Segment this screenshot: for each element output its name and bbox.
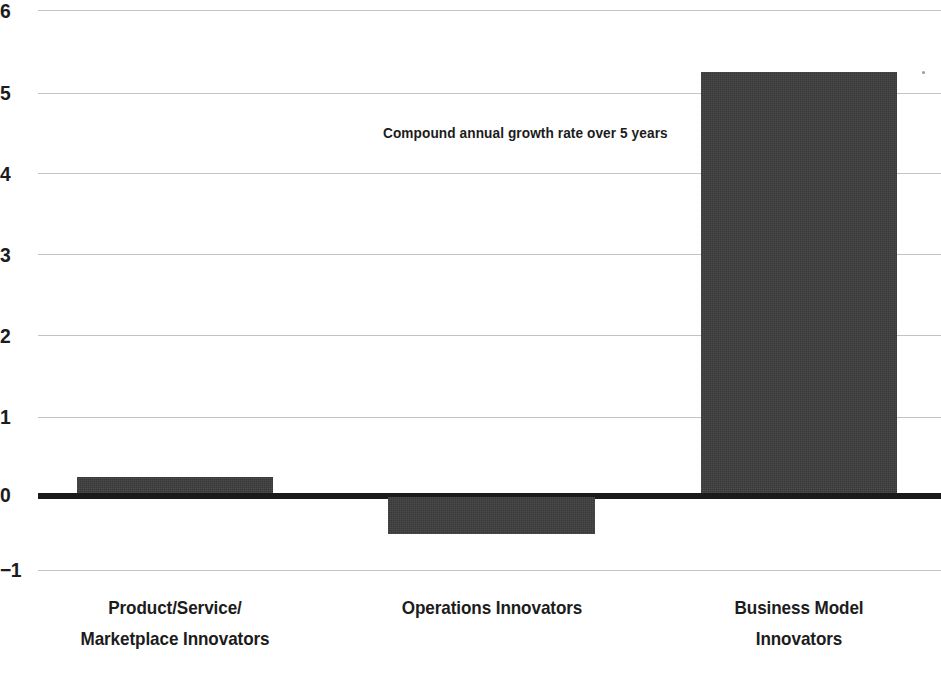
y-tick-label-3: 3 [0,244,24,265]
gridline-minus-1 [38,570,941,571]
chart-annotation: Compound annual growth rate over 5 years [383,124,668,142]
y-tick-label-4: 4 [0,163,24,184]
x-label-line-2: Innovators [667,623,932,654]
bar-chart: 6 5 4 3 2 1 0 −1 Compound annual growth … [0,0,941,685]
x-axis-labels: Product/Service/ Marketplace Innovators … [0,586,941,685]
x-label-line-1: Operations Innovators [360,592,625,623]
x-label-line-1: Business Model [667,592,932,623]
bar-operations-innovators[interactable] [388,497,595,534]
x-label-business-model-innovators: Business Model Innovators [652,592,941,654]
y-tick-label-5: 5 [0,82,24,103]
y-tick-label-6: 6 [0,0,24,21]
gridline-6 [38,10,941,11]
x-label-line-1: Product/Service/ [43,592,308,623]
x-label-operations-innovators: Operations Innovators [345,592,639,623]
plot-area: 6 5 4 3 2 1 0 −1 Compound annual growth … [0,0,941,580]
y-tick-label-minus-1: −1 [0,559,24,580]
y-tick-label-1: 1 [0,406,24,427]
scan-artifact-speck [922,71,925,74]
bar-business-model-innovators[interactable] [701,72,897,497]
x-label-product-service-marketplace-innovators: Product/Service/ Marketplace Innovators [28,592,322,654]
x-label-line-2: Marketplace Innovators [43,623,308,654]
y-tick-label-0: 0 [0,484,24,505]
y-tick-label-2: 2 [0,325,24,346]
